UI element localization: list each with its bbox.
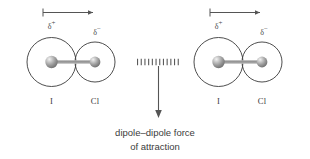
delta-positive-label-right: δ+ bbox=[215, 22, 223, 31]
molecule-left bbox=[27, 9, 115, 87]
pointer-down-arrow bbox=[155, 66, 162, 118]
atom-label-iodine-left: I bbox=[50, 96, 53, 106]
caption-line-2: of attraction bbox=[0, 140, 310, 154]
atom-label-iodine-right: I bbox=[217, 96, 220, 106]
delta-positive-label-left: δ+ bbox=[48, 22, 56, 31]
delta-negative-label-left: δ− bbox=[93, 28, 101, 37]
bond-right bbox=[219, 60, 263, 64]
atom-label-chlorine-right: Cl bbox=[258, 96, 266, 106]
atom-sphere-iodine-left bbox=[45, 56, 57, 68]
atom-sphere-chlorine-left bbox=[90, 57, 101, 68]
delta-negative-label-right: δ− bbox=[260, 28, 268, 37]
atom-sphere-chlorine-right bbox=[257, 57, 268, 68]
dipole-dipole-diagram: δ+ δ− δ+ δ− I Cl I Cl dipole–dipole forc… bbox=[0, 0, 310, 159]
molecule-right bbox=[194, 9, 282, 87]
bond-left bbox=[52, 60, 96, 64]
atom-label-chlorine-left: Cl bbox=[91, 96, 99, 106]
caption: dipole–dipole force of attraction bbox=[0, 126, 310, 153]
dipole-arrow-right bbox=[210, 9, 260, 17]
caption-line-1: dipole–dipole force bbox=[0, 126, 310, 140]
atom-sphere-iodine-right bbox=[212, 56, 224, 68]
dipole-arrow-left bbox=[43, 9, 93, 17]
